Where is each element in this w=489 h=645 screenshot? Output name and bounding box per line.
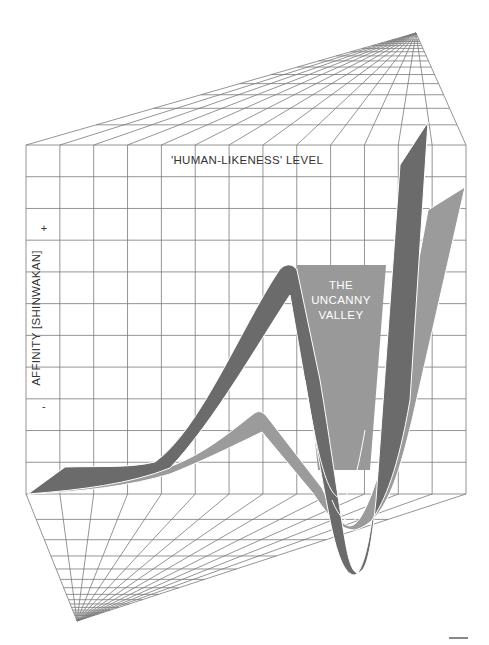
perspective-grid-bottom — [26, 494, 466, 621]
page-corner-mark — [449, 637, 468, 639]
uncanny-valley-diagram — [0, 0, 489, 645]
valley-label-line-2: UNCANNY — [300, 293, 382, 308]
uncanny-valley-label: THE UNCANNY VALLEY — [300, 278, 382, 323]
x-axis-label: 'HUMAN-LIKENESS' LEVEL — [171, 154, 323, 166]
valley-label-line-1: THE — [300, 278, 382, 293]
valley-label-line-3: VALLEY — [300, 308, 382, 323]
y-axis-plus-marker: + — [41, 222, 48, 234]
y-axis-minus-marker: - — [42, 400, 46, 412]
y-axis-label: AFFINITY [SHINWAKAN] — [30, 250, 42, 386]
perspective-grid-top — [26, 33, 466, 145]
